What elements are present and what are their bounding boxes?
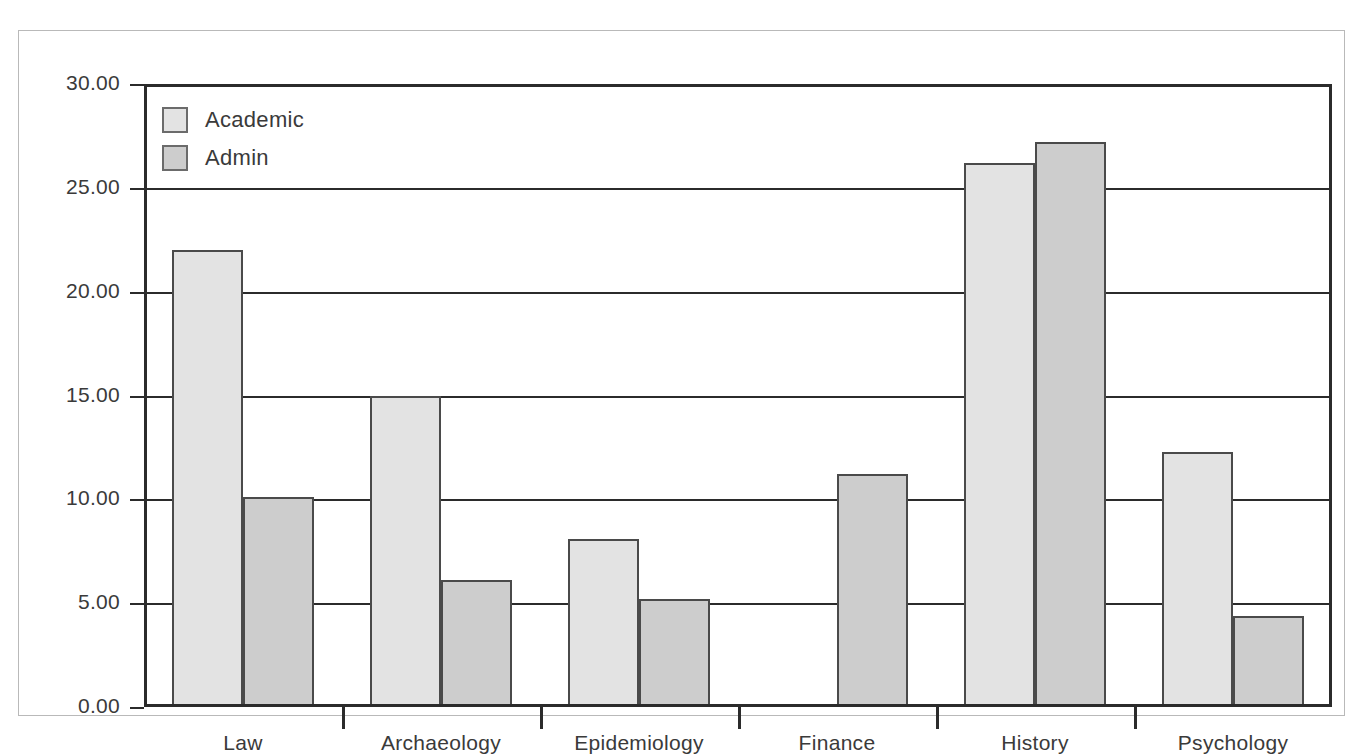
bar-admin bbox=[243, 497, 314, 707]
y-tick-mark bbox=[130, 707, 144, 709]
gridline bbox=[144, 292, 1332, 294]
x-tick-mark bbox=[738, 707, 741, 729]
y-tick-label: 0.00 bbox=[20, 694, 120, 718]
y-tick-label: 5.00 bbox=[20, 590, 120, 614]
bar-academic bbox=[964, 163, 1035, 707]
y-tick-mark bbox=[130, 84, 144, 86]
y-tick-mark bbox=[130, 396, 144, 398]
y-tick-mark bbox=[130, 292, 144, 294]
figure-border: Academic Admin 0.005.0010.0015.0020.0025… bbox=[18, 30, 1345, 716]
y-tick-label: 30.00 bbox=[20, 71, 120, 95]
x-tick-mark bbox=[936, 707, 939, 729]
x-tick-mark bbox=[342, 707, 345, 729]
y-tick-label: 25.00 bbox=[20, 175, 120, 199]
y-tick-mark bbox=[130, 499, 144, 501]
bar-admin bbox=[837, 474, 908, 707]
bar-academic bbox=[568, 539, 639, 707]
bar-admin bbox=[441, 580, 512, 707]
gridline bbox=[144, 188, 1332, 190]
bar-admin bbox=[1233, 616, 1304, 707]
y-tick-label: 15.00 bbox=[20, 383, 120, 407]
bar-academic bbox=[1162, 452, 1233, 707]
y-tick-label: 10.00 bbox=[20, 486, 120, 510]
y-tick-mark bbox=[130, 603, 144, 605]
x-tick-label: Psychology bbox=[1134, 731, 1332, 755]
bar-academic bbox=[172, 250, 243, 707]
bar-academic bbox=[370, 396, 441, 708]
x-tick-label: Finance bbox=[738, 731, 936, 755]
x-tick-mark bbox=[1134, 707, 1137, 729]
bar-admin bbox=[1035, 142, 1106, 707]
y-tick-mark bbox=[130, 188, 144, 190]
plot-area bbox=[144, 84, 1332, 707]
gridline bbox=[144, 499, 1332, 501]
x-tick-label: Epidemiology bbox=[540, 731, 738, 755]
x-tick-label: Archaeology bbox=[342, 731, 540, 755]
x-tick-label: History bbox=[936, 731, 1134, 755]
gridline bbox=[144, 396, 1332, 398]
x-tick-label: Law bbox=[144, 731, 342, 755]
gridline bbox=[144, 603, 1332, 605]
bar-admin bbox=[639, 599, 710, 707]
x-tick-mark bbox=[540, 707, 543, 729]
y-tick-label: 20.00 bbox=[20, 279, 120, 303]
